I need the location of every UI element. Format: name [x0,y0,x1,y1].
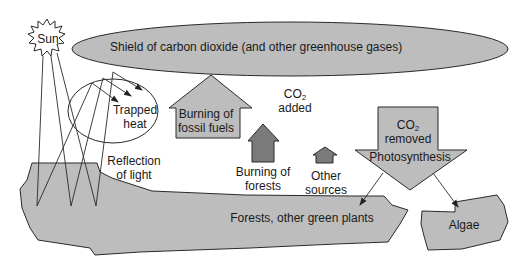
trapped-heat-line1: Trapped [112,104,158,118]
co2-added-line2: added [272,102,318,116]
fossil-fuels-line2: fossil fuels [174,122,238,136]
other-sources-line2: sources [303,184,349,198]
reflection-line1: Reflection [104,155,164,169]
trapped-heat-line2: heat [112,118,158,132]
co2-added-label: CO2 added [272,88,318,116]
forests-burning-line2: forests [233,180,293,194]
fossil-fuels-label: Burning of fossil fuels [174,108,238,136]
other-sources-line1: Other [303,170,349,184]
reflection-label: Reflection of light [104,155,164,183]
algae-label: Algae [444,219,484,233]
other-sources-arrow [313,147,337,163]
other-sources-label: Other sources [303,170,349,198]
forests-burning-arrow [248,124,279,162]
forests-burning-label: Burning of forests [233,166,293,194]
forests-burning-line1: Burning of [233,166,293,180]
sun-label: Sun [36,33,60,47]
plants-label: Forests, other green plants [222,212,382,226]
reflection-line2: of light [104,169,164,183]
photosynthesis-label: Photosynthesis [365,151,455,165]
fossil-fuels-line1: Burning of [174,108,238,122]
co2-removed-label: CO2 removed [380,119,436,147]
co2-removed-co: CO [397,118,415,132]
co2-added-co: CO [284,87,302,101]
co2-removed-line2: removed [380,133,436,147]
trapped-heat-label: Trapped heat [112,104,158,132]
arrow-to-algae [433,173,458,207]
shield-label: Shield of carbon dioxide (and other gree… [110,41,410,55]
